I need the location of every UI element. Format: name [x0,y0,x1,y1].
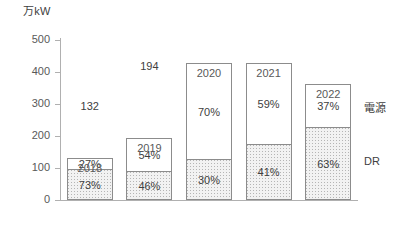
bar-segment-dr[interactable]: 30% [186,159,232,200]
bar-segment-label-dr: 41% [247,166,291,178]
y-axis-tick [55,200,61,201]
y-axis-tick [55,72,61,73]
y-axis-tick-label: 200 [18,130,50,141]
bar-segment-label-dr: 30% [187,174,231,186]
stacked-bar-chart: 万kW 0100200300400500 13227%73%201819454%… [0,0,406,232]
bar-segment-label-gensetsu: 37% [306,100,350,112]
bar-group[interactable]: 13227%73%2018 [67,158,113,200]
legend-label-dr: DR [364,155,380,167]
y-axis-tick-label: 300 [18,98,50,109]
y-axis-unit-label: 万kW [23,2,50,18]
bar-segment-dr[interactable]: 63% [305,127,351,200]
bar-segment-dr[interactable]: 46% [126,171,172,200]
x-axis-tick-label: 2020 [178,67,240,79]
x-axis-tick-label: 2019 [118,142,180,154]
bar-segment-label-dr: 46% [127,180,171,192]
y-axis-tick-label: 100 [18,162,50,173]
bar-group[interactable]: 42770%30%2020 [186,63,232,200]
y-axis-tick-label: 0 [18,194,50,205]
bar-segment-label-gensetsu: 70% [187,106,231,118]
y-axis-tick-label: 500 [18,34,50,45]
legend-label-gensetsu: 電源 [364,99,386,115]
bar-group[interactable]: 36437%63%2022 [305,84,351,200]
y-axis-line [60,38,61,201]
bar-group[interactable]: 19454%46%2019 [126,138,172,200]
x-axis-tick-label: 2021 [238,67,300,79]
y-axis-tick [55,40,61,41]
bar-segment-label-dr: 63% [306,158,350,170]
x-axis-tick-label: 2022 [297,88,359,100]
x-axis-line [60,200,358,201]
bar-total-label: 132 [59,100,121,112]
y-axis-tick [55,136,61,137]
bar-segment-label-dr: 73% [68,179,112,191]
bar-segment-dr[interactable]: 41% [246,144,292,200]
bar-group[interactable]: 42759%41%2021 [246,63,292,200]
y-axis-tick-label: 400 [18,66,50,77]
x-axis-tick-label: 2018 [59,162,121,174]
bar-total-label: 194 [118,60,180,72]
bar-segment-label-gensetsu: 59% [247,98,291,110]
